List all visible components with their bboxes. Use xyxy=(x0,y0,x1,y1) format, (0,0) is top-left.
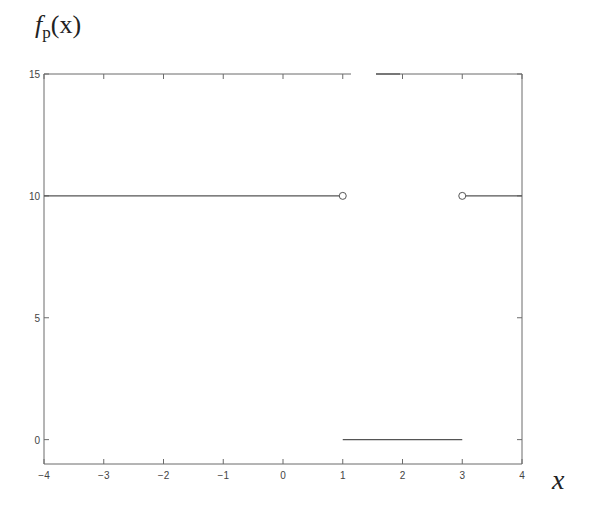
y-tick-label: 10 xyxy=(29,191,41,202)
x-tick-label: 3 xyxy=(459,470,465,481)
open-circle-marker xyxy=(459,192,466,199)
ticks: −4−3−2−101234051015 xyxy=(29,69,525,481)
x-tick-label: 2 xyxy=(400,470,406,481)
x-tick-label: −4 xyxy=(38,470,50,481)
y-tick-label: 0 xyxy=(34,435,40,446)
data-series xyxy=(44,192,522,439)
x-tick-label: −3 xyxy=(98,470,110,481)
open-circle-marker xyxy=(339,192,346,199)
axes xyxy=(44,74,522,464)
x-tick-label: −2 xyxy=(158,470,170,481)
x-tick-label: 1 xyxy=(340,470,346,481)
x-tick-label: 4 xyxy=(519,470,525,481)
plot-area: −4−3−2−101234051015 xyxy=(0,0,601,528)
y-tick-label: 5 xyxy=(34,313,40,324)
x-tick-label: 0 xyxy=(280,470,286,481)
y-tick-label: 15 xyxy=(29,69,41,80)
x-tick-label: −1 xyxy=(218,470,230,481)
